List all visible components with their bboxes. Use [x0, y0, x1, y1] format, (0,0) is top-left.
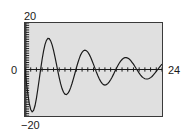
x-axis-max-label: 24	[168, 64, 180, 76]
data-series-line	[25, 38, 162, 111]
y-axis-min-label: −20	[21, 119, 40, 131]
plot-area	[24, 22, 163, 117]
y-axis-zero-label: 0	[11, 64, 17, 76]
y-axis-max-label: 20	[24, 10, 36, 22]
chart-figure: 20 0 −20 24	[0, 0, 189, 139]
plot-canvas	[25, 23, 162, 116]
